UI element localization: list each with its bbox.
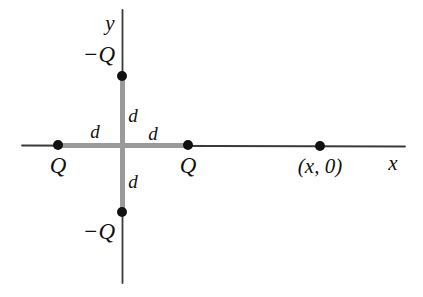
charge-dot-left (53, 140, 63, 150)
field-point-label: (x, 0) (298, 156, 342, 177)
charge-dot-right (183, 140, 193, 150)
field-point-dot (315, 141, 325, 151)
distance-label-left: d (90, 122, 100, 141)
x-axis-label: x (388, 153, 397, 174)
distance-label-bottom: d (128, 172, 138, 191)
charge-dot-bottom (117, 207, 127, 217)
charge-label-right: Q (180, 154, 197, 177)
charge-dot-top (117, 71, 127, 81)
charge-label-left: Q (50, 154, 67, 177)
charge-label-top: −Q (83, 43, 115, 66)
charge-label-bottom: −Q (83, 220, 115, 243)
charge-configuration-figure: x y Q Q −Q −Q d d d d (x, 0) (0, 0, 423, 297)
diagram-canvas (0, 0, 423, 297)
distance-label-right: d (148, 124, 158, 143)
y-axis-label: y (105, 13, 114, 34)
distance-label-top: d (128, 106, 138, 125)
